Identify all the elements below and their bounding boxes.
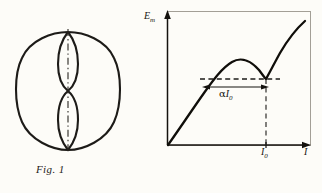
figure-sheet: Fig. 1 Fig. 2 <box>0 0 322 193</box>
figure-1-drawing <box>0 0 160 160</box>
span-annotation-label: αI0 <box>219 88 233 102</box>
y-axis-label: Em <box>144 10 155 24</box>
alpha-symbol: α <box>219 88 226 99</box>
x-axis-label: I <box>304 146 307 157</box>
span-var-sub: 0 <box>229 94 233 102</box>
x-axis-tick-label-i0: I0 <box>261 146 268 160</box>
figure-frame <box>168 12 311 146</box>
right-lobe-path <box>68 32 120 150</box>
y-axis-label-sub: m <box>150 16 155 24</box>
figure-1: Fig. 1 <box>0 0 160 193</box>
figure-1-caption: Fig. 1 <box>36 163 65 175</box>
span-arrow-head-right <box>261 84 269 89</box>
x-tick-sub: 0 <box>264 152 268 160</box>
em-curve <box>168 21 305 145</box>
figure-2-drawing <box>160 0 322 160</box>
figure-2: Fig. 2 <box>160 0 322 193</box>
left-lobe-path <box>16 32 68 150</box>
